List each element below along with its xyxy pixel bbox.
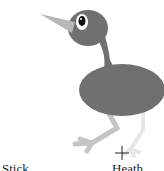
back-leg bbox=[124, 110, 143, 156]
bird-illustration bbox=[0, 0, 164, 171]
image-stage: Stick Heath bbox=[0, 0, 164, 171]
beak bbox=[40, 14, 75, 33]
caption-left: Stick bbox=[2, 162, 29, 171]
front-leg bbox=[75, 112, 117, 151]
eye-pupil bbox=[79, 16, 86, 26]
bird-head bbox=[68, 10, 108, 46]
crosshair-cursor-icon bbox=[115, 146, 129, 160]
eye-highlight bbox=[80, 18, 82, 20]
caption-right: Heath bbox=[112, 162, 143, 171]
bird-body bbox=[79, 64, 164, 116]
